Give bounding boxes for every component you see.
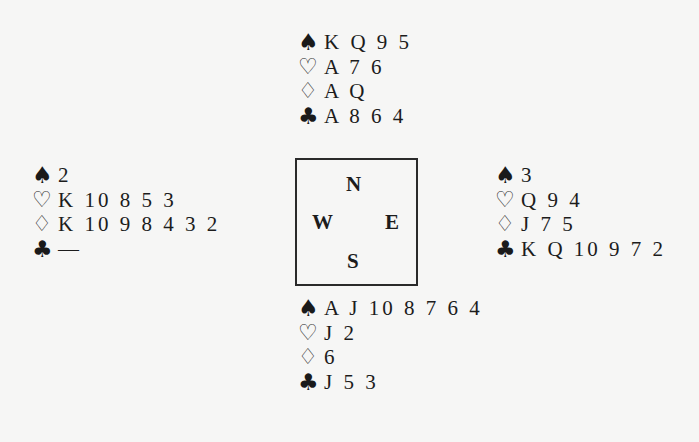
west-spades-cards: 2 <box>58 163 72 188</box>
diamond-icon: ♢ <box>32 212 58 237</box>
west-hearts-cards: K 10 8 5 3 <box>58 188 177 213</box>
spade-icon: ♠ <box>298 296 324 321</box>
east-diamonds-cards: J 7 5 <box>521 212 576 237</box>
north-diamonds-cards: A Q <box>324 79 367 104</box>
south-hand: ♠ A J 10 8 7 6 4 ♡ J 2 ♢ 6 ♣ J 5 3 <box>298 296 483 394</box>
heart-icon: ♡ <box>32 188 58 213</box>
compass-north-label: N <box>346 172 361 197</box>
compass-east-label: E <box>385 210 399 235</box>
spade-icon: ♠ <box>495 163 521 188</box>
east-hearts: ♡ Q 9 4 <box>495 188 666 213</box>
west-hearts: ♡ K 10 8 5 3 <box>32 188 220 213</box>
diamond-icon: ♢ <box>495 212 521 237</box>
west-diamonds: ♢ K 10 9 8 4 3 2 <box>32 212 220 237</box>
west-diamonds-cards: K 10 9 8 4 3 2 <box>58 212 220 237</box>
north-diamonds: ♢ A Q <box>298 79 412 104</box>
north-clubs-cards: A 8 6 4 <box>324 104 406 129</box>
east-clubs-cards: K Q 10 9 7 2 <box>521 237 666 262</box>
club-icon: ♣ <box>495 237 521 262</box>
compass-south-label: S <box>347 249 359 274</box>
heart-icon: ♡ <box>298 55 324 80</box>
north-clubs: ♣ A 8 6 4 <box>298 104 412 129</box>
heart-icon: ♡ <box>495 188 521 213</box>
east-spades: ♠ 3 <box>495 163 666 188</box>
south-clubs: ♣ J 5 3 <box>298 370 483 395</box>
spade-icon: ♠ <box>298 30 324 55</box>
spade-icon: ♠ <box>32 163 58 188</box>
compass-west-label: W <box>312 210 333 235</box>
south-hearts-cards: J 2 <box>324 321 357 346</box>
diamond-icon: ♢ <box>298 79 324 104</box>
east-hearts-cards: Q 9 4 <box>521 188 583 213</box>
diamond-icon: ♢ <box>298 345 324 370</box>
south-diamonds: ♢ 6 <box>298 345 483 370</box>
west-hand: ♠ 2 ♡ K 10 8 5 3 ♢ K 10 9 8 4 3 2 ♣ — <box>32 163 220 261</box>
north-spades-cards: K Q 9 5 <box>324 30 412 55</box>
club-icon: ♣ <box>32 237 58 262</box>
south-diamonds-cards: 6 <box>324 345 338 370</box>
north-spades: ♠ K Q 9 5 <box>298 30 412 55</box>
south-spades-cards: A J 10 8 7 6 4 <box>324 296 483 321</box>
compass-box: N W E S <box>295 158 418 286</box>
south-clubs-cards: J 5 3 <box>324 370 379 395</box>
west-spades: ♠ 2 <box>32 163 220 188</box>
north-hand: ♠ K Q 9 5 ♡ A 7 6 ♢ A Q ♣ A 8 6 4 <box>298 30 412 128</box>
east-hand: ♠ 3 ♡ Q 9 4 ♢ J 7 5 ♣ K Q 10 9 7 2 <box>495 163 666 261</box>
club-icon: ♣ <box>298 370 324 395</box>
east-spades-cards: 3 <box>521 163 535 188</box>
south-hearts: ♡ J 2 <box>298 321 483 346</box>
east-clubs: ♣ K Q 10 9 7 2 <box>495 237 666 262</box>
north-hearts: ♡ A 7 6 <box>298 55 412 80</box>
heart-icon: ♡ <box>298 321 324 346</box>
club-icon: ♣ <box>298 104 324 129</box>
west-clubs: ♣ — <box>32 237 220 262</box>
east-diamonds: ♢ J 7 5 <box>495 212 666 237</box>
south-spades: ♠ A J 10 8 7 6 4 <box>298 296 483 321</box>
west-clubs-cards: — <box>58 237 82 262</box>
north-hearts-cards: A 7 6 <box>324 55 385 80</box>
